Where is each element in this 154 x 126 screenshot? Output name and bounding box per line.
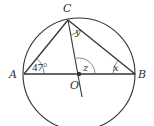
angle-label-a: 47° xyxy=(32,61,47,73)
angle-label-x: x xyxy=(113,62,119,73)
label-point-b: B xyxy=(137,68,146,81)
angle-label-y: y xyxy=(74,26,81,37)
label-point-o: O xyxy=(70,79,79,92)
circle-geometry-diagram: C A B O 47° y z x xyxy=(0,0,154,126)
label-point-a: A xyxy=(8,68,17,81)
center-point-o xyxy=(77,72,81,76)
angle-label-z: z xyxy=(82,62,89,73)
label-point-c: C xyxy=(63,2,72,15)
